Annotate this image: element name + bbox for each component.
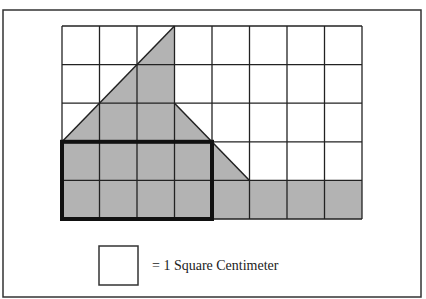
area-diagram: [0, 0, 426, 299]
legend-unit-square: [99, 246, 138, 285]
legend-label: = 1 Square Centimeter: [152, 258, 278, 274]
